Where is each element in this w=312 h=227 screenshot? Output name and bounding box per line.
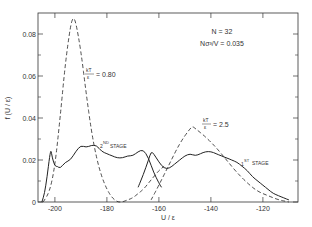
y-tick-label: 0.04 <box>22 115 36 122</box>
annotation-density: Nσ³/V = 0.035 <box>200 40 244 47</box>
svg-text:STAGE: STAGE <box>110 143 127 149</box>
annotation-2nd-stage: 2 ND STAGE <box>100 140 127 149</box>
series-group <box>42 19 289 202</box>
svg-text:ND: ND <box>103 140 109 145</box>
x-tick-label: -200 <box>48 205 62 212</box>
svg-text:kT: kT <box>203 117 209 123</box>
x-axis-label: U / ε <box>161 214 175 221</box>
y-tick-label: 0 <box>32 199 36 206</box>
svg-text:ε: ε <box>204 124 207 130</box>
y-tick-label: 0.08 <box>22 31 36 38</box>
axis-tick-labels: -200-180-160-140-12000.020.040.060.08 <box>22 31 270 213</box>
x-tick-label: -180 <box>100 205 114 212</box>
y-tick-label: 0.02 <box>22 157 36 164</box>
annotation-1st-stage: 1 ST STAGE <box>241 158 269 167</box>
density-of-states-chart: -200-180-160-140-12000.020.040.060.08 U … <box>0 0 312 227</box>
svg-text:STAGE: STAGE <box>252 160 269 166</box>
annotation-kt-25: kT ε = 2.5 <box>202 117 229 130</box>
series-line-1st-stage <box>138 152 289 200</box>
annotation-n: N = 32 <box>212 28 233 35</box>
svg-text:= 0.80: = 0.80 <box>96 71 116 78</box>
svg-text:ε: ε <box>87 74 90 80</box>
annotation-kt-080: kT ε = 0.80 <box>85 67 116 80</box>
x-tick-label: -160 <box>152 205 166 212</box>
svg-text:ST: ST <box>244 158 250 163</box>
plot-frame <box>38 13 298 202</box>
x-tick-label: -120 <box>256 205 270 212</box>
x-tick-label: -140 <box>204 205 218 212</box>
svg-text:= 2.5: = 2.5 <box>213 121 229 128</box>
svg-text:kT: kT <box>86 67 92 73</box>
y-axis-label: f (U / ε) <box>4 97 12 120</box>
axis-ticks <box>38 13 298 202</box>
series-line-kt-0-80 <box>43 19 164 202</box>
y-tick-label: 0.06 <box>22 73 36 80</box>
